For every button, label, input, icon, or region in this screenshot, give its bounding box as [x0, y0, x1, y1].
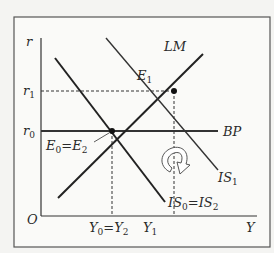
lm-label: LM: [163, 39, 187, 54]
y-axis-label: r: [26, 34, 33, 49]
e1-point: [171, 88, 177, 94]
e0-point: [109, 128, 115, 134]
is0-is2-label: IS0=IS2: [167, 195, 218, 212]
x-axis-label: Y: [246, 220, 256, 235]
origin-label: O: [27, 212, 38, 227]
bp-label: BP: [222, 124, 242, 139]
is-lm-bp-diagram: r Y O r1 r0 Y0=Y2 Y1 LM BP IS1 IS0=IS2 E…: [0, 0, 274, 253]
y0-y2-label: Y0=Y2: [89, 220, 129, 237]
e0-e2-label: E0=E2: [45, 138, 87, 155]
